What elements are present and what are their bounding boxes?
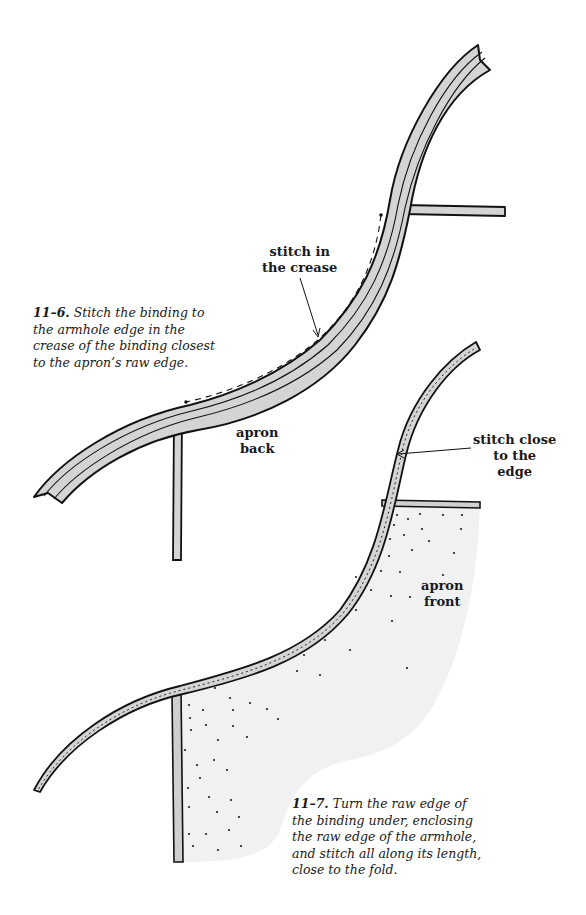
caption-line: Stitch the binding to [74, 305, 205, 320]
figure-number: 11–6. [33, 305, 70, 320]
caption-line: the armhole edge in the [33, 322, 215, 339]
caption-line: the binding under, enclosing [292, 813, 481, 830]
caption-line: Turn the raw edge of [333, 796, 467, 811]
callout-stitch-close-to-edge: stitch close to the edge [473, 432, 556, 480]
label-apron-front: apron front [421, 578, 464, 610]
label-line: front [421, 594, 464, 610]
callout-line: stitch in [262, 244, 337, 260]
caption-line: crease of the binding closest [33, 338, 215, 355]
caption-line: close to the fold. [292, 862, 481, 879]
label-line: apron [421, 578, 464, 594]
figure-11-7-drawing [34, 342, 480, 862]
callout-line: the crease [262, 260, 337, 276]
caption-figure-11-6: 11–6.Stitch the binding to the armhole e… [33, 305, 215, 371]
figure-number: 11–7. [292, 796, 329, 811]
instruction-page: stitch in the crease apron back stitch c… [0, 0, 586, 915]
figure-11-6-drawing [34, 45, 505, 560]
label-line: apron [236, 425, 279, 441]
callout-line: to the [473, 448, 556, 464]
label-line: back [236, 441, 279, 457]
label-apron-back: apron back [236, 425, 279, 457]
callout-line: edge [473, 464, 556, 480]
callout-stitch-in-the-crease: stitch in the crease [262, 244, 337, 276]
caption-line: and stitch all along its length, [292, 846, 481, 863]
caption-figure-11-7: 11–7.Turn the raw edge of the binding un… [292, 796, 481, 879]
caption-line: the raw edge of the armhole, [292, 829, 481, 846]
caption-line: to the apron’s raw edge. [33, 355, 215, 372]
callout-line: stitch close [473, 432, 556, 448]
